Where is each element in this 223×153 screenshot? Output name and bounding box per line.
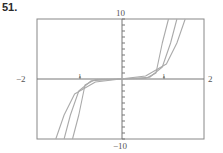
x-tick-label-left: 1 [78,72,82,80]
y-max-label: 10 [116,8,126,18]
chart: −2 2 10 −10 1 1 [0,0,223,153]
y-min-label: −10 [113,141,128,151]
x-min-label: −2 [16,74,26,84]
x-max-label: 2 [208,74,213,84]
x-tick-label-right: 1 [162,72,166,80]
